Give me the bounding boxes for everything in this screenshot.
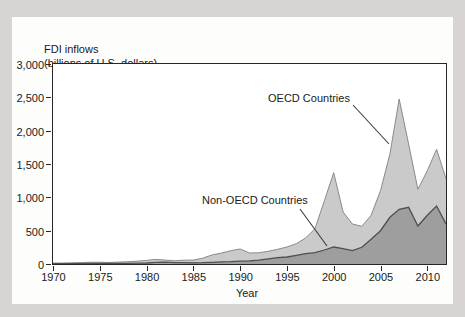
- y-tick-label: 1,500: [0, 159, 44, 171]
- y-tick-label: 3,000: [0, 59, 44, 71]
- plot-area: [52, 63, 447, 265]
- x-tick-label: 1980: [127, 271, 167, 283]
- x-tick-label: 1995: [267, 271, 307, 283]
- oecd-countries-label: OECD Countries: [268, 92, 350, 104]
- figure-screenshot: FDI inflows (billions of U.S. dollars) 0…: [0, 0, 465, 317]
- y-tick-mark: [46, 164, 51, 165]
- y-tick-mark: [46, 197, 51, 198]
- y-tick-label: 2,000: [0, 126, 44, 138]
- y-tick-mark: [46, 97, 51, 98]
- chart-title-line1: FDI inflows: [44, 42, 157, 56]
- y-tick-mark: [46, 264, 51, 265]
- x-tick-label: 2010: [408, 271, 448, 283]
- non-oecd-countries-label: Non-OECD Countries: [202, 194, 308, 206]
- x-axis-title: Year: [227, 287, 267, 299]
- y-tick-label: 500: [0, 226, 44, 238]
- y-tick-mark: [46, 64, 51, 65]
- y-tick-mark: [46, 231, 51, 232]
- x-tick-label: 1975: [80, 271, 120, 283]
- y-tick-label: 2,500: [0, 92, 44, 104]
- y-tick-label: 1,000: [0, 192, 44, 204]
- x-tick-label: 1970: [34, 271, 74, 283]
- oecd-leader-line: [353, 105, 389, 144]
- x-tick-label: 2005: [361, 271, 401, 283]
- x-tick-label: 1985: [174, 271, 214, 283]
- y-tick-mark: [46, 131, 51, 132]
- x-tick-label: 2000: [314, 271, 354, 283]
- plot-svg: [53, 64, 446, 264]
- x-tick-label: 1990: [221, 271, 261, 283]
- y-tick-label: 0: [0, 259, 44, 271]
